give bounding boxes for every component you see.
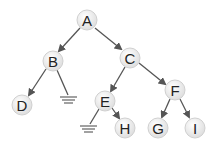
null-marker-e <box>80 126 97 132</box>
edge-a-b <box>59 28 80 51</box>
edge-f-g <box>162 99 170 117</box>
node-h: H <box>115 118 135 138</box>
null-marker-b <box>60 97 77 103</box>
edge-a-c <box>95 28 121 49</box>
edge-b-d <box>29 69 46 95</box>
svg-text:H: H <box>120 120 131 137</box>
svg-text:F: F <box>170 82 179 99</box>
svg-text:B: B <box>48 53 58 70</box>
svg-text:G: G <box>152 120 164 137</box>
svg-text:E: E <box>100 93 110 110</box>
binary-tree-diagram: A B C D E F H G I <box>0 0 213 148</box>
node-e: E <box>95 91 115 111</box>
node-a: A <box>77 10 97 30</box>
edge-c-f <box>139 63 165 84</box>
svg-text:I: I <box>193 120 197 137</box>
edge-e-null <box>90 109 99 124</box>
edge-e-h <box>112 108 119 118</box>
node-c: C <box>120 48 140 68</box>
node-i: I <box>185 118 205 138</box>
svg-text:D: D <box>17 97 28 114</box>
edge-f-i <box>180 99 189 117</box>
node-g: G <box>148 118 168 138</box>
svg-text:C: C <box>125 50 136 67</box>
svg-text:A: A <box>82 12 92 29</box>
node-d: D <box>12 95 32 115</box>
node-b: B <box>43 51 63 71</box>
edge-c-e <box>111 67 125 91</box>
node-f: F <box>165 80 185 100</box>
edge-b-null <box>57 70 68 95</box>
